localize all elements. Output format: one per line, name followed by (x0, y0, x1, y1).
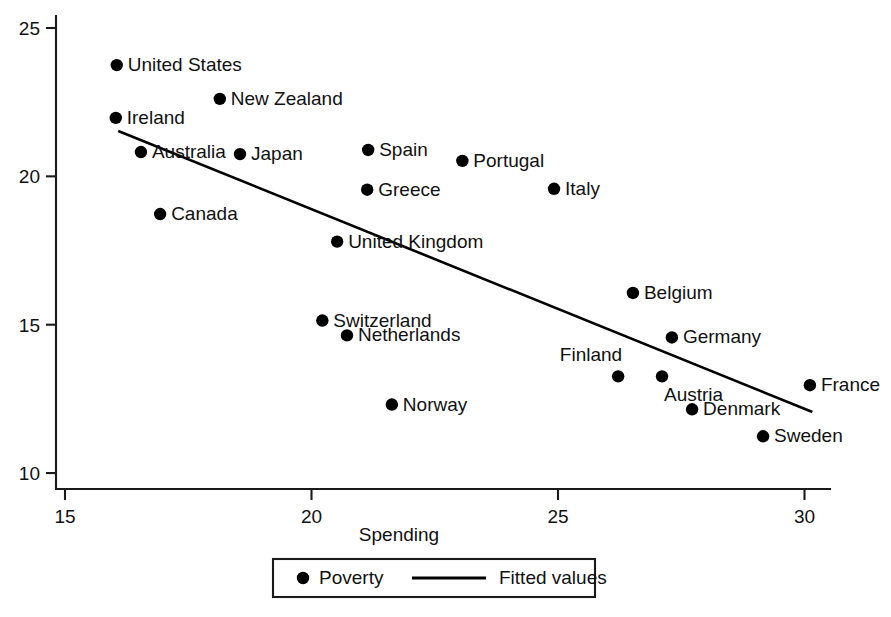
data-point[interactable]: Sweden (757, 425, 843, 446)
fitted-values-line-path (118, 131, 812, 412)
y-tick-label: 20 (19, 166, 40, 187)
point-marker (612, 370, 624, 382)
data-point[interactable]: Japan (234, 143, 303, 164)
point-label: Germany (683, 326, 762, 347)
axis-ticks (46, 28, 805, 500)
data-points: United StatesNew ZealandIrelandAustralia… (110, 54, 880, 446)
data-point[interactable]: United States (111, 54, 242, 75)
data-point[interactable]: Spain (362, 139, 428, 160)
fitted-values-line (118, 131, 812, 412)
chart-legend: PovertyFitted values (273, 559, 607, 597)
point-marker (316, 314, 328, 326)
data-point[interactable]: Portugal (456, 150, 544, 171)
point-label: Belgium (644, 282, 713, 303)
point-marker (214, 93, 226, 105)
point-marker (627, 287, 639, 299)
data-point[interactable]: Germany (666, 326, 762, 347)
data-point[interactable]: Netherlands (341, 324, 461, 345)
y-tick-label: 25 (19, 18, 40, 39)
point-label: Australia (152, 141, 226, 162)
point-marker (456, 155, 468, 167)
plot-canvas: 1015202515202530 Spending United StatesN… (0, 0, 891, 617)
point-label: Spain (379, 139, 428, 160)
point-label: Denmark (703, 398, 781, 419)
point-label: Finland (560, 344, 622, 365)
point-marker (111, 59, 123, 71)
x-tick-label: 25 (547, 506, 568, 527)
point-label: Ireland (127, 107, 185, 128)
data-point[interactable]: Italy (548, 178, 601, 199)
legend-marker-poverty (297, 572, 309, 584)
point-label: New Zealand (231, 88, 343, 109)
point-label: United States (128, 54, 242, 75)
point-marker (804, 379, 816, 391)
data-point[interactable]: Belgium (627, 282, 713, 303)
point-label: Japan (251, 143, 303, 164)
point-label: United Kingdom (348, 231, 483, 252)
point-marker (331, 235, 343, 247)
point-label: Canada (171, 203, 238, 224)
data-point[interactable]: Finland (560, 344, 625, 382)
x-tick-label: 15 (54, 506, 75, 527)
y-tick-label: 15 (19, 315, 40, 336)
point-label: France (821, 374, 880, 395)
data-point[interactable]: Greece (361, 179, 441, 200)
point-label: Italy (565, 178, 600, 199)
data-point[interactable]: Norway (386, 394, 468, 415)
legend-label-fitted-values: Fitted values (499, 567, 607, 588)
point-marker (656, 370, 668, 382)
point-label: Sweden (774, 425, 843, 446)
x-tick-label: 20 (301, 506, 322, 527)
point-marker (341, 329, 353, 341)
x-axis-title: Spending (359, 524, 439, 545)
point-label: Norway (403, 394, 468, 415)
point-marker (110, 112, 122, 124)
data-point[interactable]: New Zealand (214, 88, 343, 109)
scatter-chart-figure: 1015202515202530 Spending United StatesN… (0, 0, 891, 617)
axis-tick-labels: 1015202515202530 (19, 18, 815, 527)
point-marker (666, 331, 678, 343)
point-marker (154, 208, 166, 220)
point-marker (548, 183, 560, 195)
point-marker (362, 144, 374, 156)
data-point[interactable]: France (804, 374, 880, 395)
point-label: Greece (378, 179, 440, 200)
point-marker (686, 403, 698, 415)
point-marker (135, 146, 147, 158)
data-point[interactable]: Canada (154, 203, 238, 224)
point-label: Portugal (473, 150, 544, 171)
point-marker (757, 430, 769, 442)
x-tick-label: 30 (794, 506, 815, 527)
point-label: Netherlands (358, 324, 460, 345)
data-point[interactable]: Ireland (110, 107, 185, 128)
point-marker (386, 398, 398, 410)
point-marker (361, 184, 373, 196)
y-tick-label: 10 (19, 463, 40, 484)
legend-label-poverty: Poverty (319, 567, 384, 588)
data-point[interactable]: United Kingdom (331, 231, 483, 252)
point-marker (234, 148, 246, 160)
